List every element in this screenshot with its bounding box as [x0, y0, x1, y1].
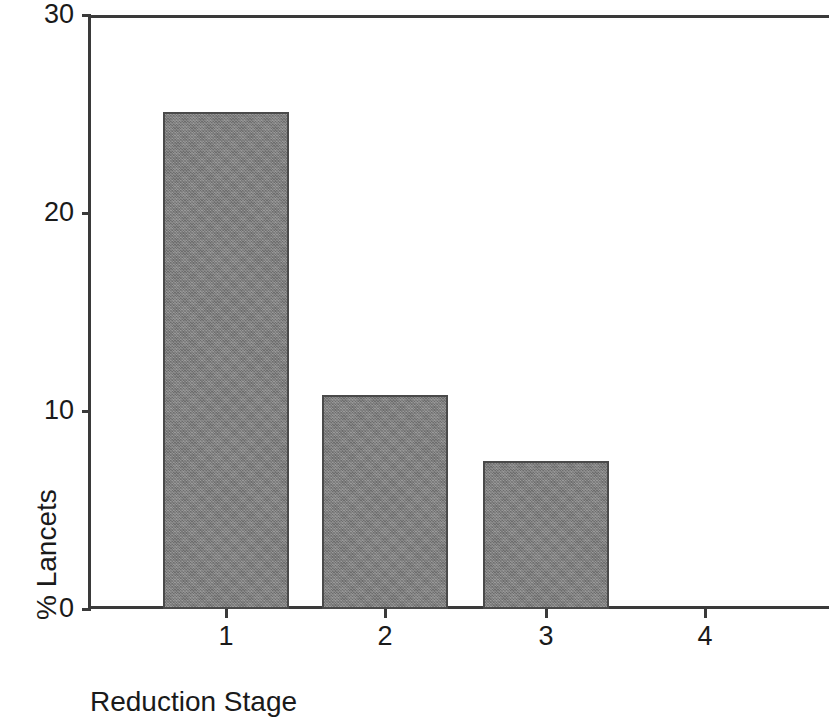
x-axis-tick-label: 1: [186, 623, 266, 650]
x-axis-tick: [704, 607, 707, 618]
y-axis-tick-label: 30: [16, 1, 74, 28]
bar: [163, 112, 289, 609]
bar-chart: 0102030 1234 Reduction Stage % Lancets: [0, 0, 829, 728]
y-axis-title: % Lancets: [33, 320, 61, 620]
y-axis-tick: [82, 608, 91, 611]
y-axis-tick: [82, 410, 91, 413]
bar: [483, 461, 609, 610]
x-axis-title: Reduction Stage: [90, 688, 297, 716]
x-axis-tick-label: 3: [506, 623, 586, 650]
x-axis-tick-label: 4: [665, 623, 745, 650]
y-axis-tick: [82, 14, 91, 17]
y-axis-tick: [82, 212, 91, 215]
x-axis-tick-label: 2: [345, 623, 425, 650]
bar: [322, 395, 448, 609]
y-axis-tick-label: 20: [16, 199, 74, 226]
